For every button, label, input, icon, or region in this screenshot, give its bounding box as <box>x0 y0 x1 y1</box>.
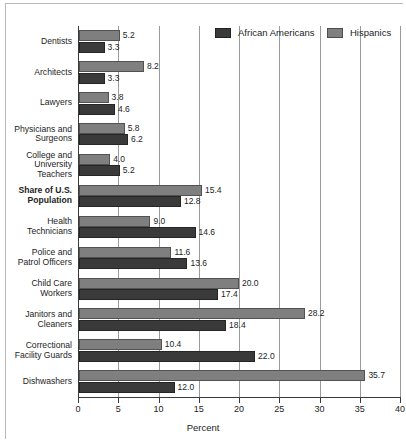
bar-value-african-americans-4: 5.2 <box>123 165 135 176</box>
bar-value-african-americans-10: 22.0 <box>258 351 275 362</box>
bar-value-african-americans-8: 17.4 <box>221 289 238 300</box>
x-axis-title: Percent <box>0 422 406 433</box>
bar-hispanics-7[interactable] <box>79 247 171 258</box>
bar-hispanics-9[interactable] <box>79 308 305 319</box>
x-tick-0 <box>78 397 79 403</box>
legend-swatch-icon-hispanics <box>327 28 343 38</box>
bar-african-americans-8[interactable] <box>79 289 218 300</box>
category-label-7: Police and Patrol Officers <box>0 248 72 267</box>
bar-african-americans-2[interactable] <box>79 104 115 115</box>
x-tick-label-0: 0 <box>75 404 80 414</box>
x-tick-10 <box>159 397 160 403</box>
category-label-4: College and University Teachers <box>0 151 72 180</box>
bar-value-african-americans-2: 4.6 <box>118 104 130 115</box>
bar-african-americans-6[interactable] <box>79 227 196 238</box>
bar-african-americans-11[interactable] <box>79 382 175 393</box>
category-label-11: Dishwashers <box>0 377 72 387</box>
bar-hispanics-8[interactable] <box>79 278 239 289</box>
bar-african-americans-0[interactable] <box>79 42 105 53</box>
bar-hispanics-11[interactable] <box>79 370 365 381</box>
bar-value-hispanics-6: 9.0 <box>153 216 165 227</box>
bar-value-hispanics-7: 11.6 <box>174 247 190 258</box>
bar-african-americans-10[interactable] <box>79 351 255 362</box>
x-tick-40 <box>400 397 401 403</box>
bar-value-hispanics-0: 5.2 <box>123 30 135 41</box>
x-tick-label-30: 30 <box>314 404 324 414</box>
gridline-40 <box>400 26 401 397</box>
bar-value-hispanics-2: 3.8 <box>112 92 124 103</box>
bar-value-african-americans-11: 12.0 <box>178 382 195 393</box>
category-label-2: Lawyers <box>0 98 72 108</box>
bar-african-americans-3[interactable] <box>79 134 128 145</box>
bar-hispanics-2[interactable] <box>79 92 109 103</box>
bar-value-african-americans-1: 3.3 <box>108 73 120 84</box>
bar-value-african-americans-9: 18.4 <box>229 320 246 331</box>
bar-hispanics-1[interactable] <box>79 61 144 72</box>
category-label-3: Physicians and Surgeons <box>0 125 72 144</box>
bar-value-african-americans-5: 12.8 <box>184 196 201 207</box>
bar-value-hispanics-5: 15.4 <box>205 185 222 196</box>
bar-hispanics-6[interactable] <box>79 216 150 227</box>
legend-item-hispanics[interactable]: Hispanics <box>327 27 391 38</box>
bar-african-americans-9[interactable] <box>79 320 226 331</box>
category-label-1: Architects <box>0 68 72 78</box>
bar-value-hispanics-8: 20.0 <box>242 278 259 289</box>
bar-african-americans-7[interactable] <box>79 258 187 269</box>
category-label-8: Child Care Workers <box>0 279 72 298</box>
bar-hispanics-3[interactable] <box>79 123 125 134</box>
bar-african-americans-5[interactable] <box>79 196 181 207</box>
x-tick-25 <box>279 397 280 403</box>
bar-value-hispanics-1: 8.2 <box>147 61 159 72</box>
x-tick-label-20: 20 <box>234 404 244 414</box>
category-label-5: Share of U.S. Population <box>0 186 72 205</box>
bar-hispanics-4[interactable] <box>79 154 110 165</box>
x-tick-15 <box>199 397 200 403</box>
x-tick-30 <box>320 397 321 403</box>
x-tick-label-40: 40 <box>395 404 405 414</box>
x-tick-label-35: 35 <box>355 404 365 414</box>
bar-value-african-americans-3: 6.2 <box>131 134 143 145</box>
category-label-9: Janitors and Cleaners <box>0 310 72 329</box>
x-tick-label-15: 15 <box>194 404 204 414</box>
bar-chart: 5.23.38.23.33.84.65.86.24.05.215.412.89.… <box>0 0 406 442</box>
category-label-10: Correctional Facility Guards <box>0 341 72 360</box>
bar-hispanics-5[interactable] <box>79 185 202 196</box>
legend-label-hispanics: Hispanics <box>350 27 391 38</box>
category-label-0: Dentists <box>0 37 72 47</box>
category-label-6: Health Technicians <box>0 217 72 236</box>
bar-value-hispanics-4: 4.0 <box>113 154 125 165</box>
bar-african-americans-4[interactable] <box>79 165 120 176</box>
x-tick-20 <box>239 397 240 403</box>
bar-value-african-americans-0: 3.3 <box>108 42 120 53</box>
bar-african-americans-1[interactable] <box>79 73 105 84</box>
plot-area: 5.23.38.23.33.84.65.86.24.05.215.412.89.… <box>78 26 400 397</box>
bar-hispanics-10[interactable] <box>79 339 162 350</box>
bar-value-hispanics-3: 5.8 <box>128 123 140 134</box>
legend-label-african-americans: African Americans <box>238 27 315 38</box>
legend-item-african-americans[interactable]: African Americans <box>215 27 315 38</box>
x-tick-label-10: 10 <box>153 404 163 414</box>
bar-value-african-americans-6: 14.6 <box>199 227 216 238</box>
bar-value-hispanics-9: 28.2 <box>308 308 325 319</box>
bar-value-hispanics-10: 10.4 <box>165 339 182 350</box>
x-tick-5 <box>118 397 119 403</box>
x-tick-label-25: 25 <box>274 404 284 414</box>
legend-swatch-icon-african-americans <box>215 28 231 38</box>
frame-border-top <box>5 3 403 4</box>
x-tick-label-5: 5 <box>116 404 121 414</box>
bar-value-hispanics-11: 35.7 <box>368 370 385 381</box>
bar-hispanics-0[interactable] <box>79 30 120 41</box>
x-tick-35 <box>360 397 361 403</box>
bar-value-african-americans-7: 13.6 <box>190 258 207 269</box>
